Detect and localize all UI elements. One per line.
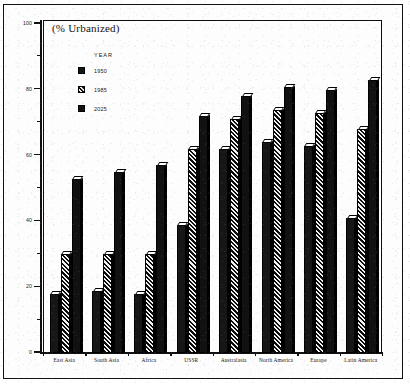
bar-group bbox=[304, 20, 335, 353]
bar-front-face bbox=[114, 172, 123, 353]
bar-north-america-1950 bbox=[262, 139, 271, 353]
x-tick bbox=[43, 352, 44, 356]
x-label-australasia: Australasia bbox=[213, 357, 255, 363]
bar-south-asia-2025 bbox=[114, 169, 123, 353]
y-tick-label: 40 bbox=[10, 217, 32, 223]
bar-europe-2025 bbox=[326, 87, 335, 353]
x-label-north-america: North America bbox=[255, 357, 297, 363]
bar-front-face bbox=[326, 90, 335, 353]
y-tick-major bbox=[34, 351, 40, 352]
bar-south-asia-1950 bbox=[92, 288, 101, 354]
chart-page: 020406080100 (% Urbanized) YEAR 19501985… bbox=[0, 0, 410, 386]
bar-front-face bbox=[315, 113, 324, 353]
y-tick-label: 100 bbox=[10, 20, 32, 26]
y-tick-major bbox=[34, 286, 40, 287]
y-tick-minor bbox=[37, 187, 41, 188]
bar-side-face bbox=[81, 177, 83, 353]
bars-layer bbox=[43, 20, 382, 353]
bar-side-face bbox=[250, 95, 252, 353]
bar-africa-1950 bbox=[134, 291, 143, 353]
bar-africa-1985 bbox=[145, 251, 154, 353]
bar-front-face bbox=[50, 294, 59, 353]
y-tick-label: 20 bbox=[10, 283, 32, 289]
bar-europe-1950 bbox=[304, 143, 313, 353]
x-label-africa: Africa bbox=[128, 357, 170, 363]
bar-front-face bbox=[241, 96, 250, 353]
x-tick bbox=[382, 352, 383, 356]
bar-side-face bbox=[377, 79, 379, 353]
bar-front-face bbox=[156, 165, 165, 353]
bar-group bbox=[92, 20, 123, 353]
x-tick bbox=[128, 352, 129, 356]
bar-front-face bbox=[304, 146, 313, 353]
bar-group bbox=[177, 20, 208, 353]
bar-ussr-1985 bbox=[188, 146, 197, 353]
y-tick-major bbox=[34, 22, 40, 23]
bar-africa-2025 bbox=[156, 162, 165, 353]
x-tick bbox=[170, 352, 171, 356]
bar-front-face bbox=[230, 119, 239, 353]
x-tick bbox=[297, 352, 298, 356]
x-tick bbox=[340, 352, 341, 356]
bar-group bbox=[134, 20, 165, 353]
bar-front-face bbox=[134, 294, 143, 353]
bar-europe-1985 bbox=[315, 110, 324, 353]
bar-front-face bbox=[219, 149, 228, 353]
x-label-europe: Europe bbox=[297, 357, 339, 363]
bar-front-face bbox=[72, 179, 81, 353]
x-label-latin-america: Latin America bbox=[340, 357, 382, 363]
bar-ussr-1950 bbox=[177, 222, 186, 353]
y-axis-line bbox=[40, 20, 42, 353]
bar-latin-america-2025 bbox=[368, 77, 377, 353]
y-tick-major bbox=[34, 220, 40, 221]
x-label-ussr: USSR bbox=[170, 357, 212, 363]
bar-australasia-1950 bbox=[219, 146, 228, 353]
bar-latin-america-1985 bbox=[357, 126, 366, 353]
y-tick-major bbox=[34, 154, 40, 155]
bar-front-face bbox=[284, 87, 293, 353]
bar-north-america-1985 bbox=[273, 107, 282, 353]
y-axis-tick-labels: 020406080100 bbox=[4, 0, 32, 386]
bar-east-asia-2025 bbox=[72, 176, 81, 353]
y-tick-label: 0 bbox=[10, 349, 32, 355]
bar-east-asia-1950 bbox=[50, 291, 59, 353]
bar-ussr-2025 bbox=[199, 113, 208, 353]
bar-front-face bbox=[346, 218, 355, 353]
x-axis-category-labels: East AsiaSouth AsiaAfricaUSSRAustralasia… bbox=[0, 357, 410, 371]
x-tick bbox=[213, 352, 214, 356]
bar-side-face bbox=[293, 85, 295, 353]
bar-east-asia-1985 bbox=[61, 251, 70, 353]
bar-front-face bbox=[103, 254, 112, 353]
bar-australasia-2025 bbox=[241, 93, 250, 353]
bar-front-face bbox=[273, 110, 282, 353]
bar-australasia-1985 bbox=[230, 116, 239, 353]
y-tick-minor bbox=[37, 253, 41, 254]
bar-group bbox=[346, 20, 377, 353]
bar-front-face bbox=[145, 254, 154, 353]
bar-side-face bbox=[165, 164, 167, 353]
bar-front-face bbox=[61, 254, 70, 353]
bar-front-face bbox=[177, 225, 186, 353]
bar-group bbox=[50, 20, 81, 353]
bar-front-face bbox=[368, 80, 377, 353]
bar-side-face bbox=[123, 171, 125, 353]
y-tick-label: 80 bbox=[10, 86, 32, 92]
x-label-south-asia: South Asia bbox=[85, 357, 127, 363]
bar-front-face bbox=[262, 142, 271, 353]
bar-group bbox=[219, 20, 250, 353]
bar-group bbox=[262, 20, 293, 353]
bar-front-face bbox=[357, 129, 366, 353]
bar-side-face bbox=[208, 115, 210, 353]
y-tick-minor bbox=[37, 55, 41, 56]
bar-front-face bbox=[188, 149, 197, 353]
y-tick-label: 60 bbox=[10, 152, 32, 158]
bar-front-face bbox=[199, 116, 208, 353]
bar-top-face bbox=[92, 288, 103, 292]
bar-latin-america-1950 bbox=[346, 215, 355, 353]
y-tick-minor bbox=[37, 121, 41, 122]
bar-front-face bbox=[92, 291, 101, 354]
y-tick-minor bbox=[37, 319, 41, 320]
x-label-east-asia: East Asia bbox=[43, 357, 85, 363]
x-tick bbox=[85, 352, 86, 356]
x-tick bbox=[255, 352, 256, 356]
